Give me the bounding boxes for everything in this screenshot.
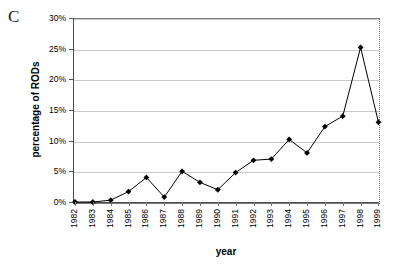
- x-tick-mark: [307, 202, 308, 206]
- x-tick-mark: [164, 202, 165, 206]
- y-gridline: [74, 111, 379, 112]
- x-tick-mark: [271, 202, 272, 206]
- y-tick-label: 20%: [22, 75, 66, 84]
- x-tick-label: 1983: [88, 209, 97, 228]
- panel-label: C: [8, 8, 19, 25]
- x-tick-mark: [75, 202, 76, 206]
- y-tick-label: 10%: [22, 137, 66, 146]
- x-tick-mark: [254, 202, 255, 206]
- x-tick-mark: [93, 202, 94, 206]
- y-tick-label: 25%: [22, 45, 66, 54]
- x-tick-label: 1994: [284, 209, 293, 228]
- x-tick-mark: [111, 202, 112, 206]
- x-tick-label: 1989: [195, 209, 204, 228]
- x-tick-label: 1984: [106, 209, 115, 228]
- chart-figure: C percentage of RODs year 0%5%10%15%20%2…: [0, 0, 402, 270]
- x-tick-mark: [200, 202, 201, 206]
- x-axis-line: [73, 202, 379, 203]
- x-tick-mark: [236, 202, 237, 206]
- x-tick-label: 1999: [373, 209, 382, 228]
- x-tick-mark: [129, 202, 130, 206]
- x-tick-mark: [325, 202, 326, 206]
- y-tick-label: 15%: [22, 106, 66, 115]
- x-tick-mark: [182, 202, 183, 206]
- x-tick-label: 1985: [124, 209, 133, 228]
- plot-area: [73, 18, 380, 204]
- x-tick-label: 1997: [338, 209, 347, 228]
- y-tick-mark: [69, 110, 73, 111]
- y-tick-label: 0%: [22, 198, 66, 207]
- x-tick-label: 1986: [141, 209, 150, 228]
- x-tick-mark: [361, 202, 362, 206]
- y-tick-mark: [69, 49, 73, 50]
- x-tick-label: 1998: [356, 209, 365, 228]
- y-gridline: [74, 19, 379, 20]
- y-axis-line: [73, 18, 74, 203]
- y-tick-mark: [69, 141, 73, 142]
- y-tick-label: 5%: [22, 167, 66, 176]
- y-gridline: [74, 80, 379, 81]
- y-tick-label: 30%: [22, 14, 66, 23]
- x-tick-mark: [378, 202, 379, 206]
- x-tick-label: 1988: [177, 209, 186, 228]
- x-tick-label: 1991: [231, 209, 240, 228]
- x-tick-mark: [146, 202, 147, 206]
- x-axis-title: year: [73, 246, 379, 257]
- y-tick-mark: [69, 171, 73, 172]
- y-gridline: [74, 172, 379, 173]
- y-gridline: [74, 50, 379, 51]
- x-tick-label: 1995: [302, 209, 311, 228]
- y-tick-mark: [69, 18, 73, 19]
- x-tick-label: 1993: [266, 209, 275, 228]
- y-tick-mark: [69, 202, 73, 203]
- x-tick-label: 1987: [159, 209, 168, 228]
- x-tick-mark: [289, 202, 290, 206]
- y-tick-mark: [69, 79, 73, 80]
- x-tick-label: 1992: [249, 209, 258, 228]
- x-tick-mark: [218, 202, 219, 206]
- x-tick-label: 1982: [70, 209, 79, 228]
- x-tick-label: 1996: [320, 209, 329, 228]
- x-tick-mark: [343, 202, 344, 206]
- y-gridline: [74, 142, 379, 143]
- x-tick-label: 1990: [213, 209, 222, 228]
